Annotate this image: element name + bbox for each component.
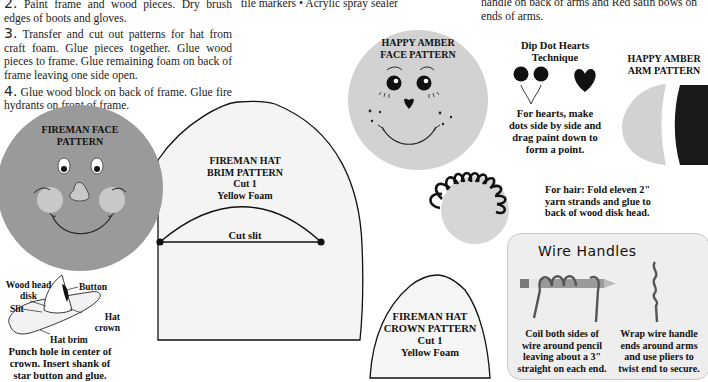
wire-left-line-3: leaving about a 3" <box>510 351 614 363</box>
wire-handles-diagram <box>0 0 708 382</box>
wire-caption-right: Wrap wire handle ends around arms and us… <box>610 328 708 374</box>
wire-left-line-2: wire around pencil <box>510 340 614 352</box>
wire-right-line-1: Wrap wire handle <box>610 328 708 340</box>
wire-left-line-1: Coil both sides of <box>510 328 614 340</box>
wire-right-line-3: and use pliers to <box>610 351 708 363</box>
wire-caption-left: Coil both sides of wire around pencil le… <box>510 328 614 374</box>
wire-left-line-4: straight on each end. <box>510 363 614 375</box>
wire-right-line-4: twist end to secure. <box>610 363 708 375</box>
wire-right-line-2: ends around arms <box>610 340 708 352</box>
